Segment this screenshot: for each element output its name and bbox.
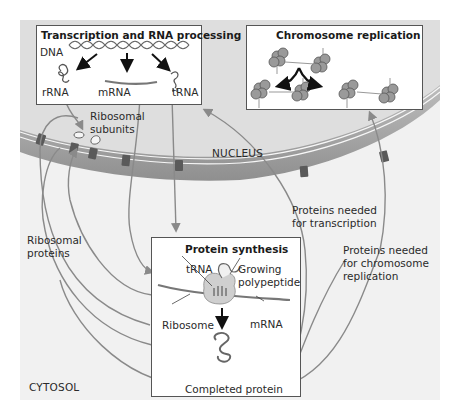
ps-trna-label: tRNA [186,263,212,275]
chromosome-icon [251,48,398,103]
ps-polypeptide-label: polypeptide [238,276,300,288]
replication-proteins-label-1: Proteins needed [343,244,428,256]
transcription-proteins-label-2: for transcription [292,217,377,229]
mrna-label: mRNA [98,86,131,98]
ribosomal-proteins-label-2: proteins [27,247,70,259]
ps-ribosome-label: Ribosome [162,319,214,331]
completed-protein-icon [215,333,231,362]
dna-helix-icon [69,41,189,49]
trna-label: tRNA [172,86,198,98]
ribosomal-subunits-label-2: subunits [90,123,135,135]
protein-synthesis-title: Protein synthesis [185,243,288,255]
ps-growing-label: Growing [238,263,281,275]
dna-label: DNA [40,46,63,58]
mrna-strand-icon [105,81,157,84]
ps-mrna-label: mRNA [250,318,283,330]
rrna-icon [59,65,69,83]
rrna-label: rRNA [42,86,69,98]
ribosomal-proteins-label-1: Ribosomal [27,234,82,246]
replication-proteins-label-3: replication [343,270,398,282]
ribosome-icon [204,273,236,304]
replication-proteins-label-2: for chromosome [343,257,429,269]
transcription-box-title: Transcription and RNA processing [41,29,241,41]
nucleus-label: NUCLEUS [212,147,263,159]
diagram-canvas: Transcription and RNA processing DNA rRN… [0,0,455,411]
chromosome-replication-title: Chromosome replication [276,29,421,41]
ps-completed-protein-label: Completed protein [185,383,283,395]
protein-synthesis-box [151,237,301,397]
cytosol-label: CYTOSOL [29,381,79,393]
ribosomal-subunits-label-1: Ribosomal [90,110,145,122]
transcription-proteins-label-1: Proteins needed [292,204,377,216]
